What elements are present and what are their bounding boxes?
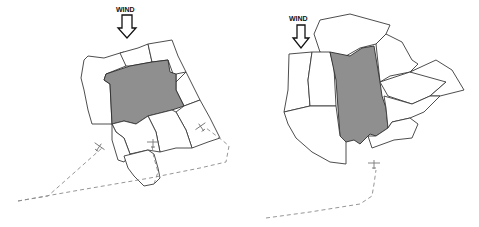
wind-field-diagram: WIND WIND (0, 0, 479, 227)
right-field-map: WIND (266, 14, 464, 218)
wind-indicator: WIND (289, 15, 309, 48)
left-field-map: WIND (18, 6, 229, 201)
wind-label: WIND (289, 15, 308, 22)
airplane-icon (91, 140, 106, 154)
field-plot (124, 150, 160, 186)
wind-label: WIND (116, 6, 135, 13)
flight-path-line (18, 148, 102, 201)
wind-indicator: WIND (116, 6, 136, 38)
wind-arrow-icon (293, 25, 309, 48)
wind-arrow-icon (118, 15, 136, 38)
flight-path-line (266, 170, 376, 218)
airplane-icon (368, 160, 380, 169)
field-plot (284, 106, 346, 164)
